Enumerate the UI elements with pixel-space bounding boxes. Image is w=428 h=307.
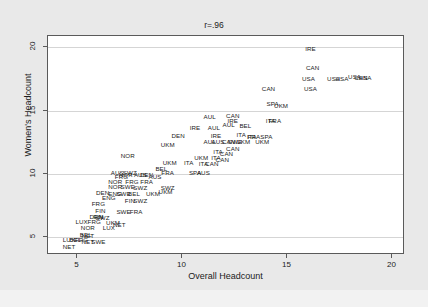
data-point-label: AUL xyxy=(204,114,216,120)
data-point-label: AUL xyxy=(222,122,234,128)
x-tick-mark-15 xyxy=(286,254,287,258)
y-tick-label-5: 5 xyxy=(28,226,37,246)
data-point-label: USA xyxy=(359,75,372,81)
x-tick-label-10: 10 xyxy=(169,260,193,269)
scatter-plot-screenshot: r=.96 Women's Headcount Overall Headcoun… xyxy=(0,0,428,307)
x-tick-label-15: 15 xyxy=(274,260,298,269)
y-tick-label-15: 15 xyxy=(28,100,37,120)
data-point-label: UKM xyxy=(161,142,175,148)
y-tick-label-20: 20 xyxy=(28,36,37,56)
data-point-label: ITA xyxy=(184,159,193,165)
data-point-label: CAN xyxy=(262,86,275,92)
y-tick-label-10: 10 xyxy=(28,163,37,183)
data-point-label: SWE xyxy=(116,209,130,215)
data-point-label: NOR xyxy=(121,153,135,159)
data-point-label: AUS xyxy=(197,170,210,176)
x-tick-label-20: 20 xyxy=(379,260,403,269)
data-point-label: SWZ xyxy=(133,197,147,203)
data-point-label: UKM xyxy=(159,189,173,195)
data-point-label: AUL xyxy=(208,125,220,131)
data-point-label: USA xyxy=(335,76,348,82)
x-tick-mark-5 xyxy=(76,254,77,258)
data-point-label: SWE xyxy=(91,239,105,245)
data-point-label: LUX xyxy=(103,225,115,231)
data-point-label: UKM xyxy=(255,139,269,145)
data-point-label: UKM xyxy=(274,103,288,109)
gridline-y-20 xyxy=(48,47,403,48)
data-point-label: IRE xyxy=(190,125,201,131)
x-tick-label-5: 5 xyxy=(64,260,88,269)
plot-area: IRECANUSAUSAUSAUSACANUSACANUSASPAUKMAULC… xyxy=(47,35,404,254)
gridline-y-10 xyxy=(48,174,403,175)
data-point-label: ITA xyxy=(236,132,245,138)
figure-canvas: r=.96 Women's Headcount Overall Headcoun… xyxy=(0,0,428,290)
chart-title: r=.96 xyxy=(0,20,428,30)
data-point-label: FRA xyxy=(161,170,174,176)
data-point-label: CAN xyxy=(205,161,218,167)
figure-bottom-strip xyxy=(0,290,428,307)
x-tick-mark-20 xyxy=(391,254,392,258)
x-axis-title: Overall Headcount xyxy=(47,271,404,281)
data-point-label: FRA xyxy=(130,209,143,215)
data-point-label: FRA xyxy=(268,118,281,124)
data-point-label: CAN xyxy=(306,65,319,71)
data-point-label: USA xyxy=(302,76,315,82)
data-point-label: BEL xyxy=(239,123,251,129)
data-point-label: IRE xyxy=(305,46,316,52)
x-tick-mark-10 xyxy=(181,254,182,258)
data-point-label: USA xyxy=(304,86,317,92)
data-point-label: DEN xyxy=(172,133,185,139)
data-point-label: NET xyxy=(63,244,76,250)
